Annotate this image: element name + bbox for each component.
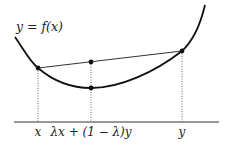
function-label: y = f(x) bbox=[15, 19, 63, 34]
convexity-diagram: y = f(x) x λx + (1 − λ)y y bbox=[0, 0, 232, 146]
point-y bbox=[180, 49, 185, 54]
axis-label-mid: λx + (1 − λ)y bbox=[49, 125, 131, 139]
point-chord-mid bbox=[89, 60, 94, 65]
axis-label-y: y bbox=[178, 125, 186, 139]
axis-label-x: x bbox=[35, 125, 42, 139]
point-curve-mid bbox=[89, 86, 94, 91]
point-x bbox=[36, 66, 41, 71]
convex-curve bbox=[15, 5, 205, 88]
